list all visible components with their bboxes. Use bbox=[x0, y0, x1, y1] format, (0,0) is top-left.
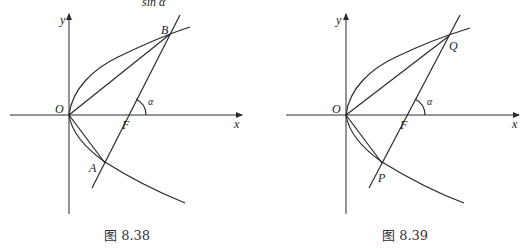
angle-alpha-arc bbox=[136, 99, 146, 115]
chord-OA bbox=[69, 115, 105, 163]
point-P-label: P bbox=[377, 171, 386, 185]
point-B-label: B bbox=[161, 23, 169, 37]
figure-caption: 图 8.39 bbox=[382, 228, 428, 243]
focal-chord-line bbox=[92, 15, 180, 188]
parabola-upper-branch bbox=[69, 27, 190, 115]
focus-label: F bbox=[399, 118, 408, 132]
x-axis-label: x bbox=[511, 117, 518, 131]
angle-alpha-arc bbox=[415, 99, 425, 115]
chord-OP bbox=[346, 115, 382, 163]
figure-8-38: y x O F B A α 图 8.38 bbox=[10, 13, 242, 243]
figure-caption: 图 8.38 bbox=[104, 228, 150, 243]
chord-OQ bbox=[346, 36, 449, 115]
point-Q-label: Q bbox=[449, 39, 458, 53]
angle-alpha-label: α bbox=[148, 96, 154, 107]
x-axis-label: x bbox=[233, 117, 240, 131]
focus-label: F bbox=[121, 118, 130, 132]
origin-label: O bbox=[332, 102, 341, 116]
angle-alpha-label: α bbox=[427, 96, 433, 107]
chord-OB bbox=[69, 35, 169, 115]
figure-8-39: y x O F Q P α 图 8.39 bbox=[286, 13, 519, 243]
point-A-label: A bbox=[88, 161, 97, 175]
y-axis-label: y bbox=[335, 13, 342, 27]
origin-label: O bbox=[55, 102, 64, 116]
diagram-canvas: sin α y x O F B A α 图 8.38 y x bbox=[0, 0, 527, 249]
focal-chord-line bbox=[369, 15, 460, 188]
header-fragment: sin α bbox=[142, 0, 166, 9]
y-axis-label: y bbox=[59, 13, 66, 27]
